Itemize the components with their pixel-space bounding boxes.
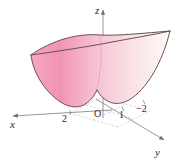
y-tick-label-1: 1 bbox=[119, 109, 124, 120]
x-axis-label: x bbox=[9, 118, 15, 130]
origin-label: O bbox=[94, 108, 101, 119]
surface-plot-figure: z x y 2 O 1 −2 bbox=[0, 0, 182, 162]
y-tick-label-neg2: −2 bbox=[136, 103, 147, 114]
x-tick-label-2: 2 bbox=[62, 113, 67, 124]
surface-plot-canvas: z x y 2 O 1 −2 bbox=[0, 0, 182, 162]
surface-right-lobe bbox=[97, 31, 170, 103]
z-axis-label: z bbox=[94, 4, 100, 16]
saddle-trough-surface bbox=[31, 31, 170, 107]
y-axis-label: y bbox=[154, 146, 160, 158]
